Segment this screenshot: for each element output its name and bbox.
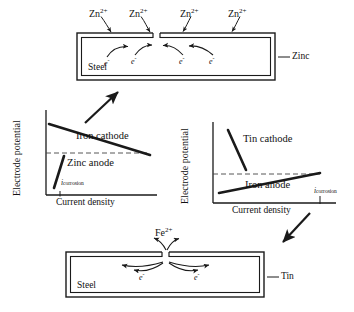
- zinc-ion-label-1: Zn2+: [89, 8, 108, 19]
- iron-anode-label: Iron anode: [245, 180, 290, 191]
- electron-label-b2: e-: [194, 271, 200, 282]
- left-chart-ylabel: Electrode potential: [12, 120, 22, 196]
- galvanized-steel-diagram: [77, 17, 290, 81]
- steel-core-outline: [82, 38, 271, 76]
- tin-label: Tin: [281, 272, 294, 282]
- zinc-ion-leaders: [101, 17, 240, 33]
- electron-label-2: e-: [131, 55, 137, 66]
- corrosion-figure: [0, 0, 354, 312]
- fe-ion-arrow-left: [154, 238, 166, 250]
- zinc-anode-label: Zinc anode: [67, 158, 114, 169]
- right-chart-ylabel: Electrode potential: [180, 128, 190, 204]
- iron-cathode-label: Iron cathode: [76, 131, 129, 142]
- coating-gap-bottom: [162, 250, 169, 258]
- zinc-ion-label-2: Zn2+: [129, 8, 148, 19]
- electron-label-4: e-: [209, 55, 215, 66]
- right-chart-xlabel: Current density: [232, 206, 291, 216]
- arrow-right-chart-to-bottom-diagram: [283, 213, 310, 242]
- tinplate-steel-diagram: [66, 238, 279, 297]
- fe-ion-arrow-right: [167, 239, 179, 251]
- left-icorr-label: icorrosion: [61, 179, 84, 187]
- right-icorr-label: icorrosion: [314, 187, 337, 195]
- connector-arrows: [85, 92, 310, 242]
- electron-label-b1: e-: [139, 271, 145, 282]
- zinc-ion-label-3: Zn2+: [180, 8, 199, 19]
- electron-label-3: e-: [179, 55, 185, 66]
- zinc-label: Zinc: [292, 52, 309, 62]
- steel-core-outline-bottom: [71, 257, 260, 293]
- zinc-ion-label-4: Zn2+: [228, 8, 247, 19]
- steel-label-bottom: Steel: [77, 281, 96, 291]
- iron-ion-arrows: [154, 238, 179, 250]
- iron-ion-label: Fe2+: [155, 227, 172, 238]
- arrow-left-chart-to-top-diagram: [85, 92, 118, 123]
- coating-gap: [153, 31, 160, 40]
- steel-label-top: Steel: [88, 63, 107, 73]
- tin-cathode-label: Tin cathode: [243, 134, 293, 145]
- left-chart-xlabel: Current density: [56, 198, 115, 208]
